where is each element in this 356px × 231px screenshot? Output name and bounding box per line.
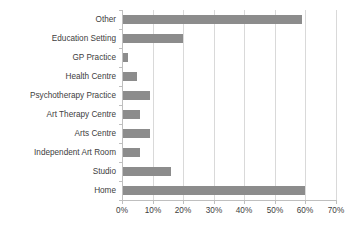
- x-tick: [305, 201, 306, 204]
- x-tick: [244, 201, 245, 204]
- x-tick: [336, 201, 337, 204]
- category-label-other: Other: [4, 15, 116, 24]
- y-tick: [119, 162, 122, 163]
- category-label-psychotherapy-practice: Psychotherapy Practice: [4, 91, 116, 100]
- bar-independent-art-room: [122, 148, 140, 157]
- y-tick: [119, 48, 122, 49]
- bar-psychotherapy-practice: [122, 91, 150, 100]
- category-label-health-centre: Health Centre: [4, 72, 116, 81]
- bar-home: [122, 186, 305, 195]
- bar-art-therapy-centre: [122, 110, 140, 119]
- y-tick: [119, 105, 122, 106]
- category-label-independent-art-room: Independent Art Room: [4, 148, 116, 157]
- y-tick: [119, 124, 122, 125]
- gridline-30: [214, 10, 215, 200]
- x-tick: [275, 201, 276, 204]
- gridline-20: [183, 10, 184, 200]
- category-label-gp-practice: GP Practice: [4, 53, 116, 62]
- x-tick: [183, 201, 184, 204]
- gridline-60: [305, 10, 306, 200]
- category-label-arts-centre: Arts Centre: [4, 129, 116, 138]
- category-label-studio: Studio: [4, 167, 116, 176]
- gridline-50: [275, 10, 276, 200]
- x-tick-label-70: 70%: [316, 206, 356, 216]
- x-tick: [153, 201, 154, 204]
- plot-area: [122, 10, 336, 200]
- x-tick: [214, 201, 215, 204]
- y-tick: [119, 143, 122, 144]
- category-label-art-therapy-centre: Art Therapy Centre: [4, 110, 116, 119]
- y-tick: [119, 181, 122, 182]
- bar-education-setting: [122, 34, 183, 43]
- y-tick: [119, 67, 122, 68]
- bar-arts-centre: [122, 129, 150, 138]
- y-tick: [119, 86, 122, 87]
- category-label-education-setting: Education Setting: [4, 34, 116, 43]
- gridline-70: [336, 10, 337, 200]
- bar-studio: [122, 167, 171, 176]
- y-tick: [119, 10, 122, 11]
- y-tick: [119, 29, 122, 30]
- y-axis-line: [122, 10, 123, 201]
- x-tick: [122, 201, 123, 204]
- gridline-40: [244, 10, 245, 200]
- bar-health-centre: [122, 72, 137, 81]
- bar-chart: Other Education Setting GP Practice Heal…: [0, 0, 356, 231]
- category-label-home: Home: [4, 186, 116, 195]
- bar-other: [122, 15, 302, 24]
